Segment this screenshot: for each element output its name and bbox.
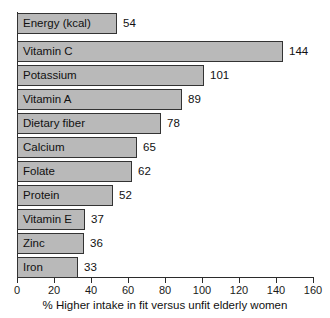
bar-row: Iron33 — [17, 257, 138, 278]
bar-row: Vitamin A89 — [17, 89, 242, 110]
x-axis-tick-label: 20 — [48, 284, 60, 297]
x-axis-tick — [276, 278, 277, 283]
bar-value-label: 52 — [119, 185, 132, 206]
bar-row: Energy (kcal)54 — [17, 13, 177, 34]
bar-value-label: 65 — [143, 137, 156, 158]
bar-value-label: 78 — [167, 113, 180, 134]
bar-value-label: 54 — [123, 13, 136, 34]
bar-category-label: Calcium — [23, 137, 65, 158]
x-axis-tick-label: 0 — [14, 284, 20, 297]
bar-value-label: 62 — [138, 161, 151, 182]
bar-value-label: 36 — [90, 233, 103, 254]
x-axis-title: % Higher intake in fit versus unfit elde… — [0, 299, 330, 311]
bar-row: Protein52 — [17, 185, 173, 206]
bar-category-label: Iron — [23, 257, 43, 278]
x-axis-tick — [128, 278, 129, 283]
bar-category-label: Folate — [23, 161, 55, 182]
bar-value-label: 89 — [188, 89, 201, 110]
x-axis-tick — [54, 278, 55, 283]
bar-value-label: 37 — [91, 209, 104, 230]
bar-row: Calcium65 — [17, 137, 197, 158]
x-axis-tick-label: 100 — [193, 284, 211, 297]
bar-category-label: Vitamin A — [23, 89, 71, 110]
plot-area: Energy (kcal)54Vitamin C144Potassium101V… — [0, 0, 330, 318]
x-axis-tick — [202, 278, 203, 283]
x-axis-tick-label: 60 — [122, 284, 134, 297]
bar-chart: Energy (kcal)54Vitamin C144Potassium101V… — [0, 0, 330, 318]
x-axis-tick — [239, 278, 240, 283]
bar-category-label: Dietary fiber — [23, 113, 85, 134]
bar-value-label: 101 — [210, 65, 229, 86]
bar-row: Dietary fiber78 — [17, 113, 221, 134]
x-axis-tick-label: 120 — [230, 284, 248, 297]
bar-row: Zinc36 — [17, 233, 144, 254]
bar-category-label: Energy (kcal) — [23, 13, 91, 34]
bar-row: Folate62 — [17, 161, 192, 182]
x-axis-tick — [17, 278, 18, 283]
bar-row: Vitamin C144 — [17, 41, 330, 62]
x-axis-tick-label: 140 — [267, 284, 285, 297]
bar-row: Potassium101 — [17, 65, 264, 86]
x-axis-tick — [91, 278, 92, 283]
bar-value-label: 144 — [289, 41, 308, 62]
x-axis-tick-label: 160 — [304, 284, 322, 297]
bar-category-label: Potassium — [23, 65, 77, 86]
bar-category-label: Vitamin C — [23, 41, 73, 62]
bar-value-label: 33 — [84, 257, 97, 278]
bar-row: Vitamin E37 — [17, 209, 145, 230]
x-axis-tick-label: 40 — [85, 284, 97, 297]
x-axis-tick-label: 80 — [159, 284, 171, 297]
x-axis-tick — [313, 278, 314, 283]
bar-category-label: Protein — [23, 185, 59, 206]
bar-category-label: Vitamin E — [23, 209, 72, 230]
x-axis-tick — [165, 278, 166, 283]
bar-category-label: Zinc — [23, 233, 45, 254]
